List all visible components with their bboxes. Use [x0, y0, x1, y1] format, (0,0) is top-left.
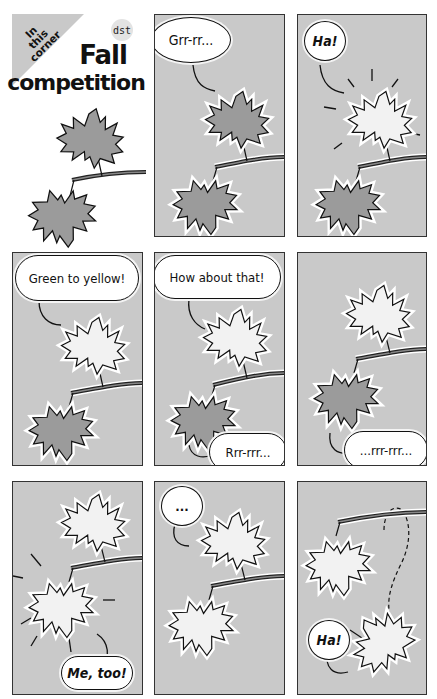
logo: dst	[111, 19, 133, 41]
panel-5: How about that! Rrr-rrr...	[154, 252, 285, 466]
speech-bubble: How about that!	[154, 255, 281, 299]
falling-path	[384, 508, 409, 616]
panel-3: Ha!	[297, 14, 427, 237]
title-competition: competition	[2, 70, 150, 95]
speech-bubble: ...rrr-rrr...	[344, 431, 427, 466]
speech-bubble: Rrr-rrr...	[209, 433, 285, 466]
speech-bubble: Ha!	[308, 620, 350, 660]
panel-8: ...	[154, 481, 285, 695]
panel-2: Grr-rr...	[154, 14, 285, 237]
speech-bubble: Ha!	[304, 21, 346, 61]
panel-7: Me, too!	[12, 481, 143, 695]
title-fall: Fall	[58, 40, 148, 70]
speech-bubble: ...	[161, 486, 203, 526]
lower-leaf-icon	[25, 183, 101, 250]
speech-bubble: Me, too!	[61, 656, 133, 690]
panel-4: Green to yellow!	[12, 252, 143, 466]
speech-bubble: Grr-rr...	[154, 17, 231, 63]
upper-leaf-icon	[53, 103, 129, 173]
panel-6: ...rrr-rrr...	[297, 252, 427, 466]
leaves-illustration	[0, 100, 150, 250]
speech-bubble: Green to yellow!	[15, 255, 139, 301]
panel-9: Ha!	[297, 481, 427, 695]
